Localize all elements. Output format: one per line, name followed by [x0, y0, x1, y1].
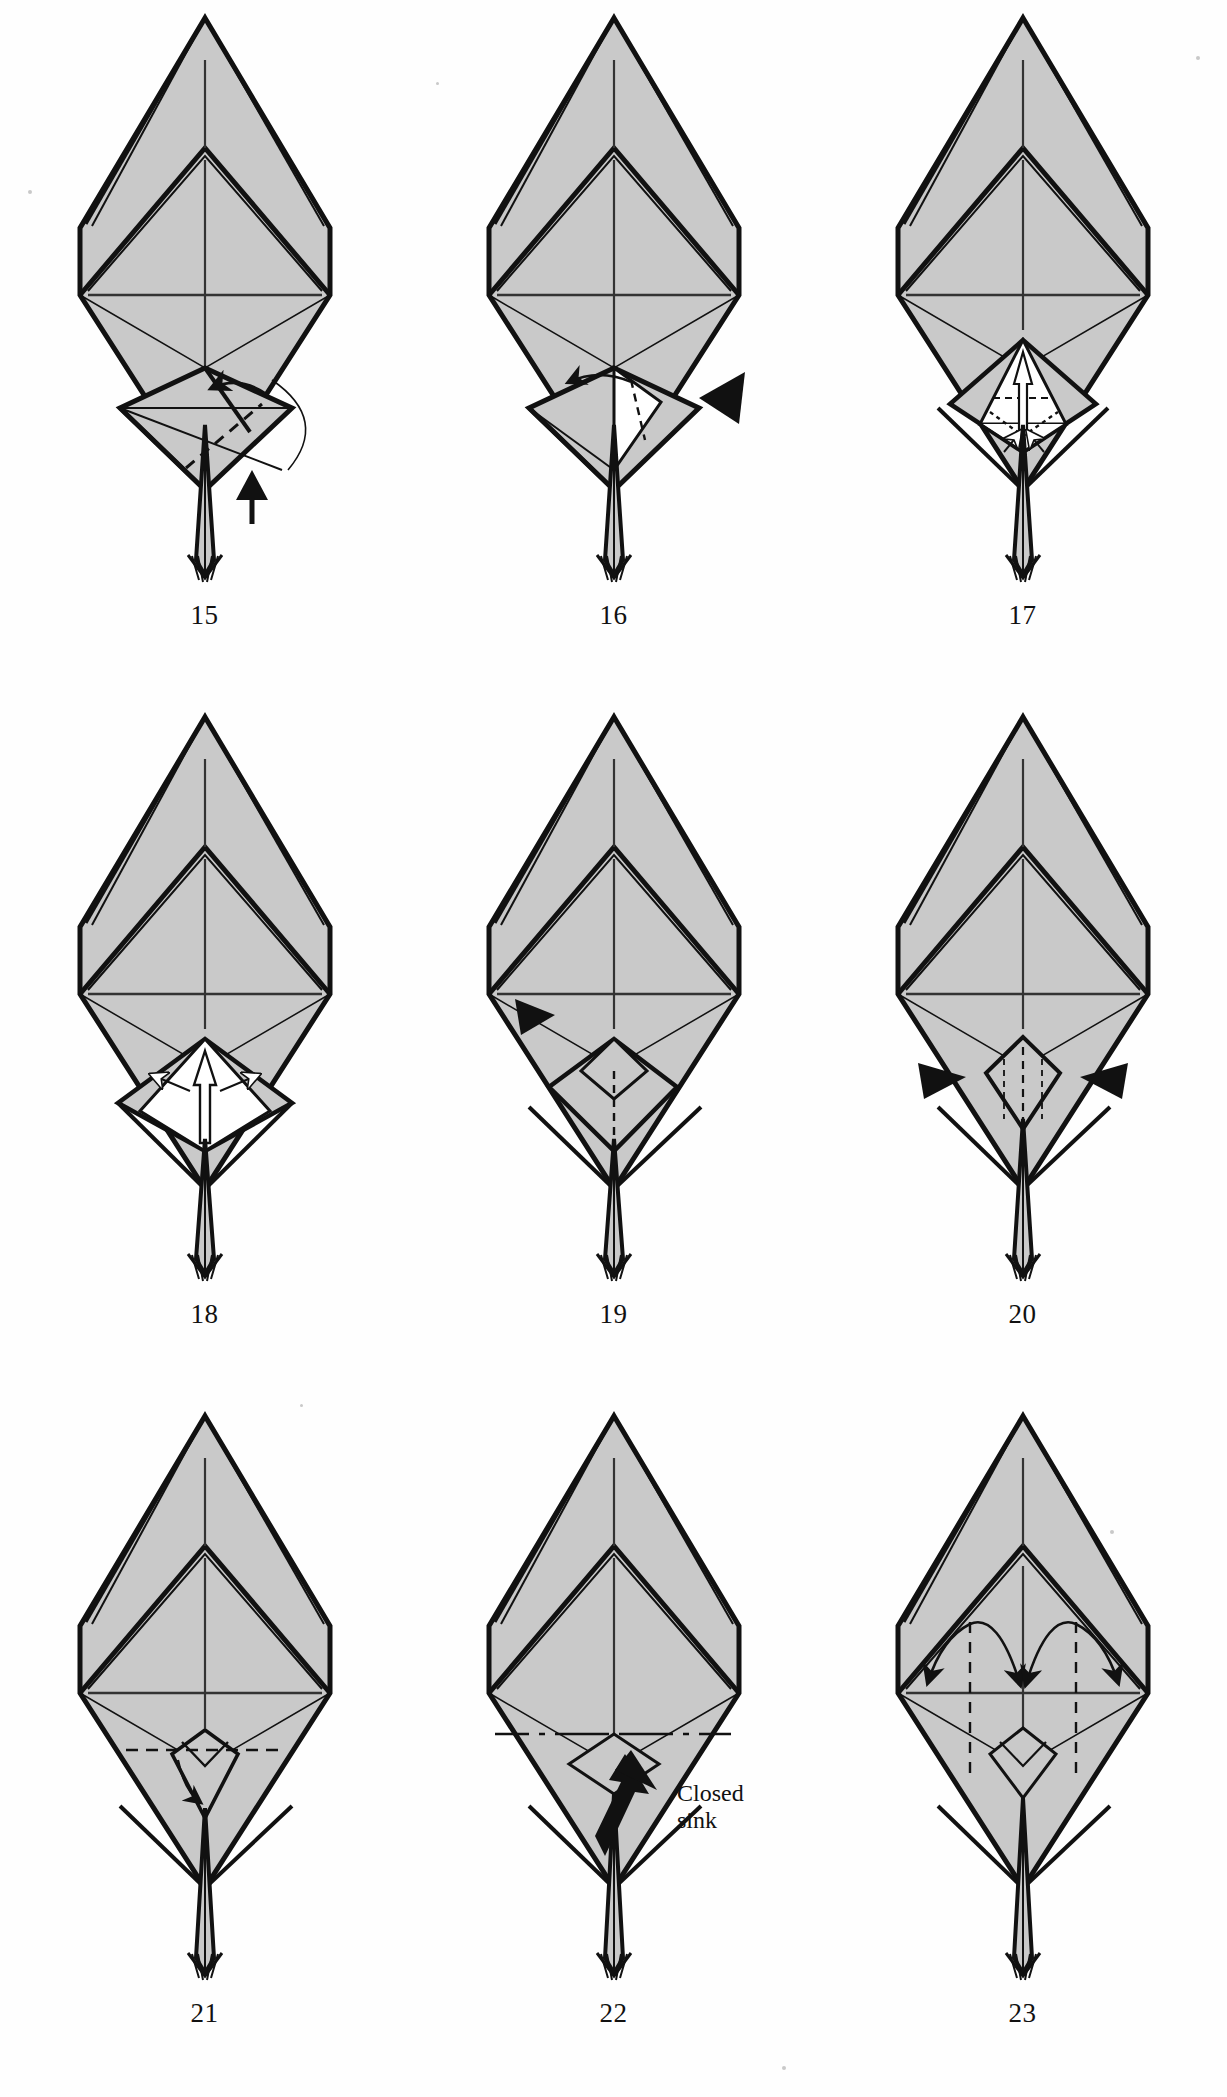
figure-20 [818, 699, 1227, 1309]
paper-body-17 [898, 18, 1148, 582]
scan-speck [300, 1404, 303, 1407]
black-push-arrowhead-16 [699, 372, 745, 424]
paper-body-19 [489, 717, 739, 1281]
step-19: 19 [409, 699, 818, 1398]
diagram-page: 15 [0, 0, 1227, 2097]
paper-body-22 [489, 1416, 739, 1980]
step-15: 15 [0, 0, 409, 699]
scan-speck [28, 190, 32, 194]
closed-sink-label: Closed sink [677, 1780, 744, 1834]
figure-16 [409, 0, 818, 610]
figure-17 [818, 0, 1227, 610]
paper-body-16 [489, 18, 739, 582]
paper-body-23 [898, 1416, 1148, 1980]
figure-15 [0, 0, 409, 610]
paper-body-15 [80, 18, 330, 582]
figure-23 [818, 1398, 1227, 2008]
scan-speck [436, 82, 439, 85]
paper-body-21 [80, 1416, 330, 1980]
step-21: 21 [0, 1398, 409, 2097]
paper-body-18 [80, 717, 330, 1281]
step-17: 17 [818, 0, 1227, 699]
step-16: 16 [409, 0, 818, 699]
scan-speck [782, 2066, 786, 2070]
figure-21 [0, 1398, 409, 2008]
scan-speck [1110, 1530, 1114, 1534]
step-18: 18 [0, 699, 409, 1398]
black-push-arrow-15 [236, 470, 268, 524]
steps-grid: 15 [0, 0, 1227, 2097]
figure-18 [0, 699, 409, 1309]
closed-sink-label-line1: Closed [677, 1780, 744, 1807]
paper-body-20 [898, 717, 1148, 1281]
scan-speck [1196, 56, 1200, 60]
step-22: Closed sink 22 [409, 1398, 818, 2097]
figure-22: Closed sink [409, 1398, 818, 2008]
figure-19 [409, 699, 818, 1309]
step-23: 23 [818, 1398, 1227, 2097]
closed-sink-label-line2: sink [677, 1807, 744, 1834]
step-20: 20 [818, 699, 1227, 1398]
